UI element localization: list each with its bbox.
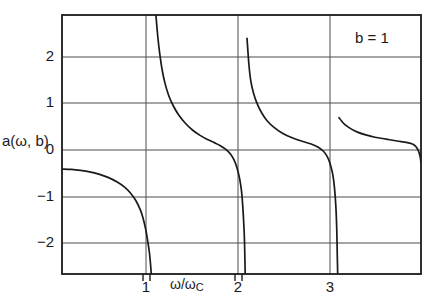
ytick-label-1: 1	[14, 93, 54, 110]
y-axis-title: a(ω, b)	[2, 132, 49, 149]
xtick-label-2: 2	[226, 278, 250, 295]
x-axis-title-subscript: C	[196, 281, 204, 293]
chart-figure: 2 1 0 −1 −2 a(ω, b) 1 2 3 ω/ωC b = 1	[0, 0, 434, 301]
ytick-label-neg1: −1	[14, 187, 54, 204]
x-axis-title: ω/ωC	[170, 276, 204, 293]
plot-background	[62, 15, 421, 274]
xtick-label-3: 3	[318, 278, 342, 295]
ytick-label-2: 2	[14, 47, 54, 64]
ytick-label-neg2: −2	[14, 233, 54, 250]
xtick-label-1: 1	[134, 278, 158, 295]
annotation-b-value: b = 1	[355, 29, 389, 46]
x-axis-title-base: ω/ω	[170, 276, 196, 292]
